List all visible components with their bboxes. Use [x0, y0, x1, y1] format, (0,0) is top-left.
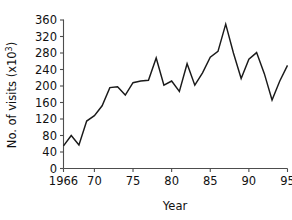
y-tick-label: 80 — [42, 129, 57, 143]
x-axis-title: Year — [162, 199, 188, 213]
chart-canvas: 04080120160200240280320360 1966707580859… — [0, 0, 292, 220]
x-tick-label: 80 — [164, 174, 179, 188]
x-tick-label: 70 — [87, 174, 102, 188]
y-tick-label: 160 — [35, 96, 57, 110]
y-tick-label: 360 — [35, 13, 57, 27]
line-chart-figure: 04080120160200240280320360 1966707580859… — [0, 0, 292, 220]
y-axis-tick-labels: 04080120160200240280320360 — [35, 13, 57, 176]
x-axis-tick-labels: 1966707580859095 — [49, 174, 292, 188]
x-tick-label: 90 — [242, 174, 257, 188]
y-axis-title: No. of visits (x103) — [5, 42, 19, 148]
x-tick-label: 75 — [126, 174, 141, 188]
y-axis-title-suffix: ) — [5, 42, 19, 47]
x-tick-label: 95 — [280, 174, 292, 188]
y-tick-label: 120 — [35, 112, 57, 126]
y-tick-label: 240 — [35, 63, 57, 77]
svg-text:No. of visits (x103): No. of visits (x103) — [5, 42, 19, 148]
y-tick-label: 280 — [35, 46, 57, 60]
y-tick-label: 40 — [42, 145, 57, 159]
y-axis-title-main: No. of visits (x10 — [5, 51, 19, 148]
x-tick-label: 1966 — [49, 174, 78, 188]
y-tick-label: 200 — [35, 79, 57, 93]
x-tick-label: 85 — [203, 174, 218, 188]
visits-series-line — [64, 24, 288, 146]
y-tick-label: 320 — [35, 30, 57, 44]
